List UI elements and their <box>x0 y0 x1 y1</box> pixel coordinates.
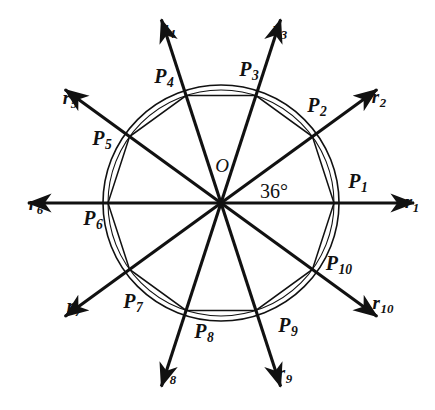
label-base: P <box>307 94 319 116</box>
vertex-label-p7: P7 <box>123 291 143 314</box>
ray-label-r3: r3 <box>273 19 287 42</box>
label-subscript: 2 <box>380 94 386 109</box>
center-point-label-O: O <box>215 156 229 175</box>
label-subscript: 1 <box>413 199 419 214</box>
vertex-label-p9: P9 <box>278 315 298 338</box>
ray-r5 <box>65 90 221 203</box>
ray-r9 <box>221 203 281 387</box>
label-base: r <box>372 86 379 107</box>
ray-label-r2: r2 <box>372 87 386 110</box>
label-base: r <box>162 363 169 384</box>
vertex-label-p5: P5 <box>92 128 112 151</box>
label-subscript: 3 <box>281 26 287 41</box>
vertex-label-p8: P8 <box>194 321 214 344</box>
ray-r10 <box>221 203 377 316</box>
vertex-label-p2: P2 <box>307 95 327 118</box>
ray-label-r9: r9 <box>278 363 292 386</box>
label-base: P <box>239 58 251 80</box>
label-base: P <box>326 252 338 274</box>
label-subscript: 2 <box>320 104 327 119</box>
label-subscript: 5 <box>71 95 77 110</box>
label-subscript: 4 <box>169 25 175 40</box>
label-base: r <box>373 292 380 313</box>
ray-label-r1: r1 <box>405 192 419 215</box>
ray-r8 <box>161 203 221 387</box>
ray-label-r4: r4 <box>161 18 175 41</box>
label-subscript: 6 <box>37 201 43 216</box>
vertex-label-p3: P3 <box>239 59 259 82</box>
ray-r4 <box>161 19 221 203</box>
figure-canvas <box>0 0 435 410</box>
vertex-label-p6: P6 <box>83 208 103 231</box>
ray-label-r7: r7 <box>67 296 81 319</box>
label-base: P <box>154 65 166 87</box>
vertex-label-p1: P1 <box>348 171 368 194</box>
label-base: r <box>67 295 74 316</box>
label-subscript: 8 <box>170 371 176 386</box>
label-subscript: 9 <box>291 324 298 339</box>
label-base: r <box>63 87 70 108</box>
label-subscript: 7 <box>136 300 143 315</box>
radial-rays <box>28 19 414 386</box>
label-subscript: 3 <box>252 68 259 83</box>
label-subscript: 6 <box>96 217 103 232</box>
label-subscript: 1 <box>361 180 368 195</box>
ray-label-r6: r6 <box>29 194 43 217</box>
label-base: r <box>161 17 168 38</box>
ray-r3 <box>221 19 281 203</box>
label-base: P <box>278 314 290 336</box>
label-base: P <box>92 127 104 149</box>
label-base: r <box>278 362 285 383</box>
vertex-label-p4: P4 <box>154 66 174 89</box>
label-base: P <box>123 290 135 312</box>
label-subscript: 8 <box>207 330 214 345</box>
label-base: r <box>29 193 36 214</box>
label-base: P <box>348 170 360 192</box>
ray-label-r5: r5 <box>63 88 77 111</box>
angle-label-36-degrees: 36° <box>260 181 288 201</box>
label-subscript: 9 <box>286 370 292 385</box>
label-subscript: 4 <box>167 75 174 90</box>
label-base: P <box>83 207 95 229</box>
label-subscript: 7 <box>75 303 81 318</box>
label-base: r <box>405 191 412 212</box>
vertex-label-p10: P10 <box>326 253 352 276</box>
ray-label-r8: r8 <box>162 364 176 387</box>
label-subscript: 10 <box>381 300 394 315</box>
label-base: r <box>273 18 280 39</box>
ray-label-r10: r10 <box>373 293 394 316</box>
label-subscript: 5 <box>105 137 112 152</box>
decagon-figure: P1P2P3P4P5P6P7P8P9P10r1r2r3r4r5r6r7r8r9r… <box>0 0 435 410</box>
label-base: P <box>194 320 206 342</box>
label-subscript: 10 <box>339 262 353 277</box>
